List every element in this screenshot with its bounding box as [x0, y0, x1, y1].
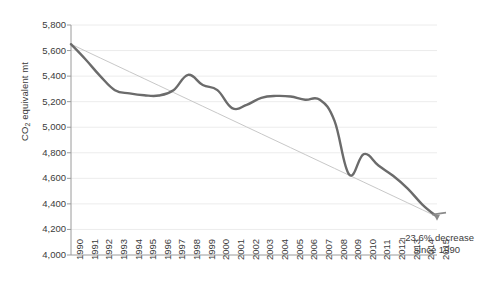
x-axis-tick-label: 1990	[75, 239, 85, 260]
x-axis-tick-label: 1993	[119, 239, 129, 260]
y-axis-tick-labels: 5,8005,6005,4005,2005,0004,8004,6004,400…	[14, 0, 66, 305]
marker-arrowhead	[434, 215, 440, 221]
y-axis-tick-label: 4,200	[42, 224, 66, 234]
y-axis-tick-label: 5,800	[42, 20, 66, 30]
x-axis-tick-label: 1994	[134, 239, 144, 260]
y-axis-tick-label: 4,400	[42, 199, 66, 209]
x-axis-tick-label: 2005	[295, 239, 305, 260]
y-axis-tick-label: 5,600	[42, 46, 66, 56]
x-axis-tick-label: 1999	[207, 239, 217, 260]
x-axis-tick-label: 2004	[280, 239, 290, 260]
x-axis-tick-label: 2008	[339, 239, 349, 260]
axis-ticks	[67, 25, 71, 255]
trend-line	[71, 44, 437, 217]
y-axis-tick-label: 5,200	[42, 97, 66, 107]
decrease-annotation: –23.6% decrease since 1990	[359, 232, 479, 256]
x-axis-tick-label: 1996	[163, 239, 173, 260]
annotation-line-1: –23.6% decrease	[359, 232, 479, 244]
x-axis-tick-label: 1997	[177, 239, 187, 260]
x-axis-tick-label: 2001	[236, 239, 246, 260]
gridlines	[71, 25, 437, 229]
x-axis-tick-label: 2003	[265, 239, 275, 260]
x-axis-tick-label: 2002	[251, 239, 261, 260]
x-axis-tick-label: 2000	[221, 239, 231, 260]
x-axis-tick-label: 1992	[104, 239, 114, 260]
x-axis-tick-label: 2006	[309, 239, 319, 260]
x-axis-tick-label: 2007	[324, 239, 334, 260]
y-axis-tick-label: 4,000	[42, 250, 66, 260]
y-axis-tick-label: 4,800	[42, 148, 66, 158]
endpoint-arrow-marker	[432, 213, 446, 221]
annotation-line-2: since 1990	[359, 244, 479, 256]
x-axis-tick-label: 1995	[148, 239, 158, 260]
x-axis-tick-label: 1998	[192, 239, 202, 260]
y-axis-tick-label: 5,000	[42, 122, 66, 132]
x-axis-tick-label: 1991	[90, 239, 100, 260]
y-axis-tick-label: 4,600	[42, 173, 66, 183]
y-axis-tick-label: 5,400	[42, 71, 66, 81]
